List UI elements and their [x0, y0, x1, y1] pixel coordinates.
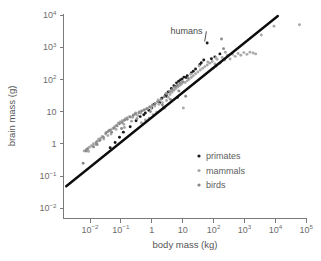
data-point: [99, 139, 102, 142]
data-point: [177, 89, 180, 92]
data-point: [224, 51, 227, 54]
data-point: [102, 136, 105, 139]
legend-label-primates: primates: [206, 151, 241, 161]
data-point: [206, 42, 209, 45]
data-point: [163, 95, 166, 98]
data-point: [126, 118, 129, 121]
data-point: [92, 145, 95, 148]
x-tick-label: 10: [178, 225, 188, 235]
data-point: [229, 58, 232, 61]
data-point: [182, 106, 185, 109]
data-point: [143, 108, 146, 111]
data-point: [254, 52, 257, 55]
data-point: [129, 116, 132, 119]
data-point: [234, 55, 237, 58]
data-point: [222, 47, 225, 50]
data-point: [242, 51, 245, 54]
data-point: [210, 57, 213, 60]
legend-marker-primates: [197, 154, 200, 157]
data-point: [196, 71, 199, 74]
legend-label-birds: birds: [206, 180, 226, 190]
data-point: [237, 52, 240, 55]
data-point: [206, 64, 209, 67]
data-point: [146, 107, 149, 110]
data-point: [116, 124, 119, 127]
data-point: [113, 127, 116, 130]
legend-marker-mammals: [197, 169, 200, 172]
data-point: [165, 99, 168, 102]
data-point: [171, 88, 174, 91]
data-point: [252, 52, 255, 55]
data-point: [161, 104, 164, 107]
chart-figure: 10−210−1110102103104105 10410310210110−1…: [0, 0, 321, 261]
data-point: [189, 73, 192, 76]
data-point: [142, 113, 145, 116]
data-point: [140, 109, 143, 112]
data-point: [273, 25, 276, 28]
data-point: [248, 51, 251, 54]
data-point: [173, 86, 176, 89]
data-point: [106, 134, 109, 137]
data-point: [86, 148, 89, 151]
data-point: [149, 105, 152, 108]
data-point: [220, 38, 223, 41]
data-point: [122, 131, 125, 134]
data-point: [123, 119, 126, 122]
data-point: [157, 100, 160, 103]
data-point: [176, 84, 179, 87]
data-point: [132, 114, 135, 117]
data-point: [200, 61, 203, 64]
data-point: [194, 72, 197, 75]
data-point: [218, 52, 221, 55]
data-point: [166, 93, 169, 96]
data-point: [114, 141, 117, 144]
data-point: [118, 136, 121, 139]
legend-label-mammals: mammals: [206, 166, 246, 176]
data-point: [169, 93, 172, 96]
data-point: [246, 53, 249, 56]
data-point: [206, 60, 209, 63]
x-axis-title: body mass (kg): [153, 239, 218, 250]
legend-marker-birds: [197, 183, 200, 186]
data-point: [105, 131, 108, 134]
data-point: [118, 122, 121, 125]
data-point: [184, 95, 187, 98]
data-point: [135, 117, 138, 120]
data-point: [260, 34, 263, 37]
data-point: [168, 90, 171, 93]
data-point: [96, 143, 99, 146]
data-point: [134, 113, 137, 116]
data-point: [82, 162, 85, 165]
data-point: [181, 80, 184, 83]
data-point: [130, 120, 133, 123]
data-point: [151, 104, 154, 107]
data-point: [194, 68, 197, 71]
data-point: [149, 110, 152, 113]
brain-vs-body-mass-scatter-plot: 10−210−1110102103104105 10410310210110−1…: [0, 0, 321, 261]
data-point: [298, 23, 301, 26]
data-point: [160, 98, 163, 101]
y-tick-label: 1: [51, 139, 56, 149]
y-tick-label: 10: [46, 107, 56, 117]
data-point: [137, 111, 140, 114]
data-point: [121, 121, 124, 124]
chart-background: [0, 0, 321, 261]
annotation-label-humans: humans: [170, 26, 203, 36]
data-point: [167, 96, 170, 99]
data-point: [198, 65, 201, 68]
data-point: [211, 60, 214, 63]
data-point: [187, 77, 190, 80]
data-point: [192, 74, 195, 77]
data-point: [239, 54, 242, 57]
data-point: [179, 82, 182, 85]
x-tick-label: 1: [149, 225, 154, 235]
data-point: [203, 65, 206, 68]
data-point: [129, 125, 132, 128]
data-point: [109, 128, 112, 131]
data-point: [199, 69, 202, 72]
y-axis-title: brain mass (g): [6, 86, 17, 147]
data-point: [192, 70, 195, 73]
data-point: [120, 127, 123, 130]
data-point: [215, 56, 218, 59]
data-point: [123, 126, 126, 129]
